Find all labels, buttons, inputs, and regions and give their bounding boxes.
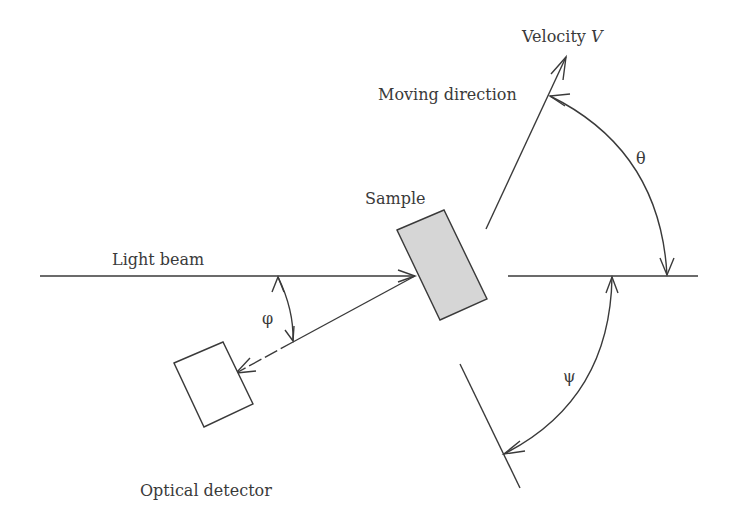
phi-arrow-top (272, 277, 284, 292)
velocity-label-text: Velocity (521, 27, 591, 46)
theta-arc (550, 96, 667, 275)
velocity-label: Velocity V (521, 27, 604, 46)
sample-block (397, 210, 487, 320)
detector-arrowhead (236, 358, 256, 373)
velocity-arrowhead (551, 57, 566, 80)
optical-detector-box (174, 342, 253, 427)
velocity-line (486, 57, 566, 229)
velocity-symbol: V (591, 27, 604, 46)
scattered-beam-line (293, 276, 415, 342)
theta-label: θ (636, 149, 646, 168)
psi-arrow-bottom (504, 441, 525, 454)
sample-label: Sample (365, 189, 426, 208)
lower-oblique-line (460, 364, 520, 488)
theta-arrow-top (550, 94, 570, 106)
scattered-beam-dashed (238, 342, 293, 372)
phi-label: φ (262, 309, 273, 328)
psi-label: ψ (563, 367, 576, 386)
optical-detector-label: Optical detector (140, 481, 272, 500)
psi-arc (504, 277, 612, 454)
geometry-diagram: φ Optical detector θ ψ Velocity V Moving… (0, 0, 730, 512)
moving-direction-label: Moving direction (378, 85, 517, 104)
light-beam-label: Light beam (112, 250, 204, 269)
